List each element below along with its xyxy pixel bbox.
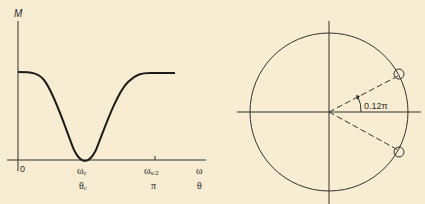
magnitude-curve xyxy=(18,72,175,161)
angle-label: 0.12π xyxy=(364,101,388,111)
zero-marker-upper xyxy=(394,69,404,79)
tick-label-pi: π xyxy=(151,180,156,191)
tick-label-omega-c: ωc xyxy=(77,165,87,177)
angle-arc xyxy=(358,97,361,112)
figure: M 0 ωc ωs/2 ω θc π θ xyxy=(0,0,425,204)
x-axis-label-theta: θ xyxy=(197,180,202,191)
magnitude-plot: M 0 ωc ωs/2 ω θc π θ xyxy=(7,8,206,192)
tick-label-theta-c: θc xyxy=(79,180,87,192)
tick-label-zero: 0 xyxy=(20,164,25,174)
tick-label-omega-s2: ωs/2 xyxy=(144,165,159,177)
zero-radius-lower xyxy=(329,112,398,150)
x-axis-label-omega: ω xyxy=(196,165,203,176)
y-axis-label: M xyxy=(14,8,23,19)
pole-zero-plot: 0.12π xyxy=(237,21,421,204)
figure-canvas: M 0 ωc ωs/2 ω θc π θ xyxy=(0,0,425,204)
